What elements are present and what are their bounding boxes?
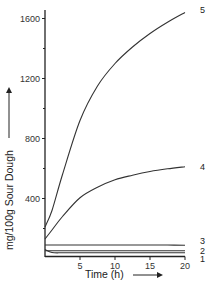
chart: 40080012001600 5101520 12345 mg/100g Sou… [0,0,220,290]
y-axis-title-text: mg/100g Sour Dough [3,150,15,250]
y-axis-title: mg/100g Sour Dough [3,90,15,250]
x-axis-title-text: Time (h) [85,268,124,280]
series-label-4: 4 [200,162,205,172]
series-label-2: 2 [200,246,205,256]
series-line-5 [45,13,185,228]
y-tick-label: 1200 [20,74,40,84]
series-lines [45,13,185,253]
series-line-4 [45,167,185,239]
y-ticks: 40080012001600 [20,14,45,229]
x-tick-label: 5 [77,261,82,271]
series-label-5: 5 [200,5,205,15]
y-tick-label: 1600 [20,14,40,24]
y-tick-label: 400 [25,194,40,204]
axes [45,10,185,257]
series-label-3: 3 [200,236,205,246]
y-tick-label: 800 [25,134,40,144]
series-labels: 12345 [200,5,205,264]
x-tick-label: 15 [145,261,155,271]
x-tick-label: 20 [180,261,190,271]
